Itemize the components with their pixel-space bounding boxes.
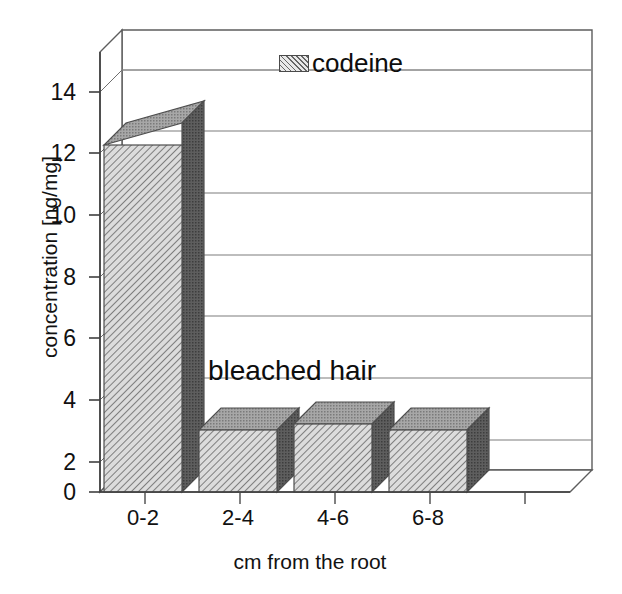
- bar-2-4[interactable]: [199, 408, 299, 492]
- x-tick-label-2-4: 2-4: [193, 505, 283, 531]
- bar-4-6-front-face: [294, 424, 372, 492]
- y-axis: [89, 52, 100, 492]
- bar-0-2-front-face: [104, 145, 182, 492]
- x-tick-label-6-8: 6-8: [383, 505, 473, 531]
- legend-swatch-codeine: [279, 55, 309, 72]
- x-axis-title: cm from the root: [90, 550, 530, 574]
- x-tick-label-0-2: 0-2: [98, 505, 188, 531]
- y-axis-title: concentration [ng/mg]: [38, 57, 62, 457]
- chart-annotation-bleached-hair: bleached hair: [208, 355, 376, 387]
- x-axis: [100, 492, 570, 504]
- bar-6-8-front-face: [389, 430, 467, 492]
- bar-4-6[interactable]: [294, 402, 394, 492]
- chart-legend[interactable]: codeine: [279, 50, 403, 76]
- legend-label-codeine: codeine: [312, 50, 403, 76]
- bar-6-8[interactable]: [389, 408, 489, 492]
- y-tick-label-0: 0: [34, 481, 76, 504]
- x-tick-label-4-6: 4-6: [288, 505, 378, 531]
- bar-2-4-front-face: [199, 430, 277, 492]
- bar-0-2[interactable]: [104, 101, 204, 492]
- chart-screenshot: 0 2 4 6 8 10 12 14 0-2 2-4 4-6 6-8 conce…: [0, 0, 622, 594]
